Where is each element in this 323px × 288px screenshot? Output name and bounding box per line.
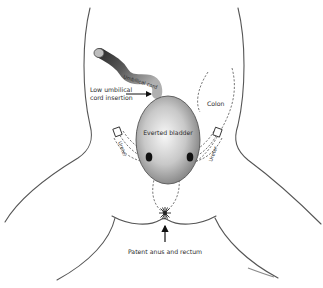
low-insertion-label-line2: cord insertion [90,94,133,101]
left-torso-outline [5,8,92,222]
left-groin-outline [57,218,115,280]
perineum-outline [112,216,216,224]
right-torso-outline [236,8,321,224]
ureter-right-label: Ureter [207,145,218,163]
everted-bladder-label: Everted bladder [143,129,193,136]
artist-signature [248,268,274,277]
bladder-exstrophy-diagram: Umbilical cord Low umbilical cord insert… [0,0,323,288]
ureter-left-label: Ureter [117,140,128,158]
right-ureteral-orifice [187,153,194,162]
low-insertion-label-line1: Low umbilical [90,86,132,93]
right-groin-outline [215,218,278,278]
anus-label: Patent anus and rectum [128,248,202,255]
diagram-canvas: Umbilical cord Low umbilical cord insert… [0,0,323,288]
everted-bladder [136,96,200,184]
umbilical-cord-end [94,49,104,58]
left-ureteral-orifice [146,153,153,162]
anus-star-icon [159,207,171,219]
colon-label: Colon [207,100,225,107]
